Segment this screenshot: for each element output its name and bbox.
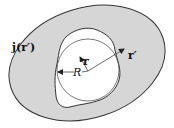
r-label: r (83, 55, 89, 68)
radius-label: R (72, 66, 81, 79)
current-density-label: j(r′) (11, 41, 35, 54)
r-prime-label: r′ (128, 49, 137, 62)
diagram-canvas: j(r′) r′ r R (0, 0, 174, 128)
